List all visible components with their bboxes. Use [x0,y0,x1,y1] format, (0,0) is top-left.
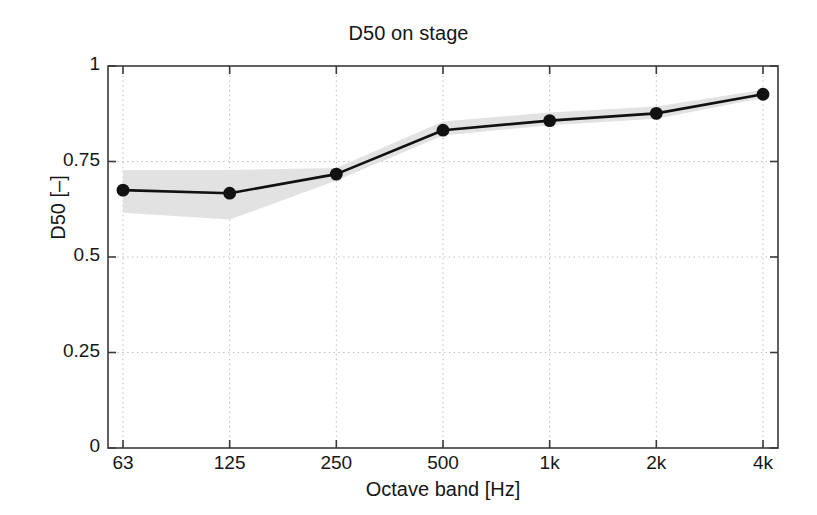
data-point-marker [650,107,663,120]
data-point-marker [437,124,450,137]
data-point-marker [757,88,770,101]
band-polygon [123,90,763,220]
data-point-marker [330,168,343,181]
confidence-band [123,90,763,220]
chart-figure: D50 on stage D50 [–] Octave band [Hz] 00… [0,0,817,515]
data-point-marker [117,184,130,197]
data-point-marker [223,187,236,200]
data-point-marker [543,114,556,127]
plot-area [0,0,817,515]
